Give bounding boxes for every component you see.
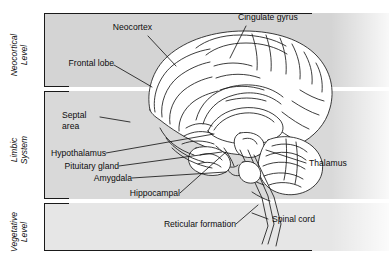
label-septal-area: Septal area	[62, 110, 104, 131]
label-hippocampal: Hippocampal	[114, 188, 180, 199]
label-pituitary-gland: Pituitary gland	[52, 161, 119, 172]
label-reticular-formation: Reticular formation	[152, 219, 236, 230]
label-amygdala: Amygdala	[82, 173, 132, 184]
label-hypothalamus: Hypothalamus	[46, 148, 106, 159]
label-thalamus: Thalamus	[309, 158, 361, 169]
label-frontal-lobe: Frontal lobe	[56, 58, 114, 69]
label-neocortex: Neocortex	[98, 22, 152, 33]
label-cingulate-gyrus: Cingulate gyrus	[238, 12, 328, 23]
brain-level-diagram: Neocortical Level Limbic System Vegetati…	[0, 0, 389, 267]
label-spinal-cord: Spinal cord	[272, 214, 330, 225]
